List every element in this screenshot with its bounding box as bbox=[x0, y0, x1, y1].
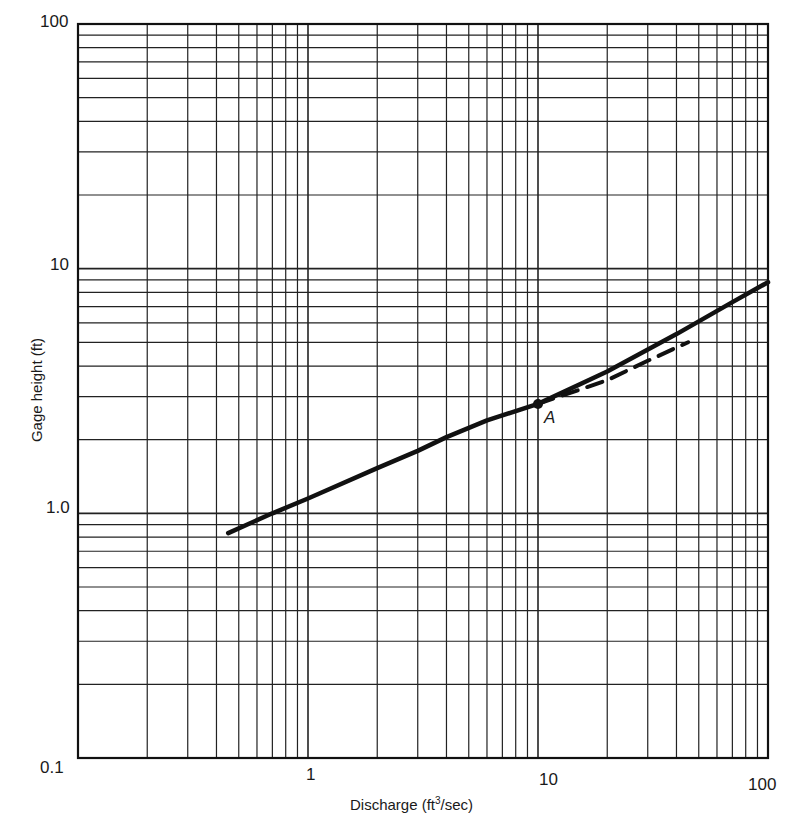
plot-frame bbox=[78, 24, 768, 758]
x-axis-label-text: Discharge (ft bbox=[350, 796, 435, 813]
x-tick-100: 100 bbox=[748, 775, 776, 795]
y-tick-10: 10 bbox=[50, 255, 69, 275]
series-group bbox=[228, 282, 768, 533]
x-axis-label: Discharge (ft3/sec) bbox=[350, 795, 473, 813]
y-axis-label: Gage height (ft) bbox=[28, 338, 45, 442]
y-tick-0.1: 0.1 bbox=[40, 758, 64, 778]
annotation-group bbox=[533, 399, 543, 409]
y-tick-100: 100 bbox=[40, 12, 68, 32]
grid-lines bbox=[78, 24, 768, 758]
y-tick-1: 1.0 bbox=[46, 498, 70, 518]
point-a-label: A bbox=[544, 408, 555, 428]
rating-curve-line bbox=[228, 282, 768, 533]
x-tick-10: 10 bbox=[539, 770, 558, 790]
chart-plot bbox=[0, 0, 799, 831]
point-a-marker bbox=[533, 399, 543, 409]
x-axis-label-unit: /sec) bbox=[441, 796, 474, 813]
x-tick-1: 1 bbox=[306, 765, 315, 785]
